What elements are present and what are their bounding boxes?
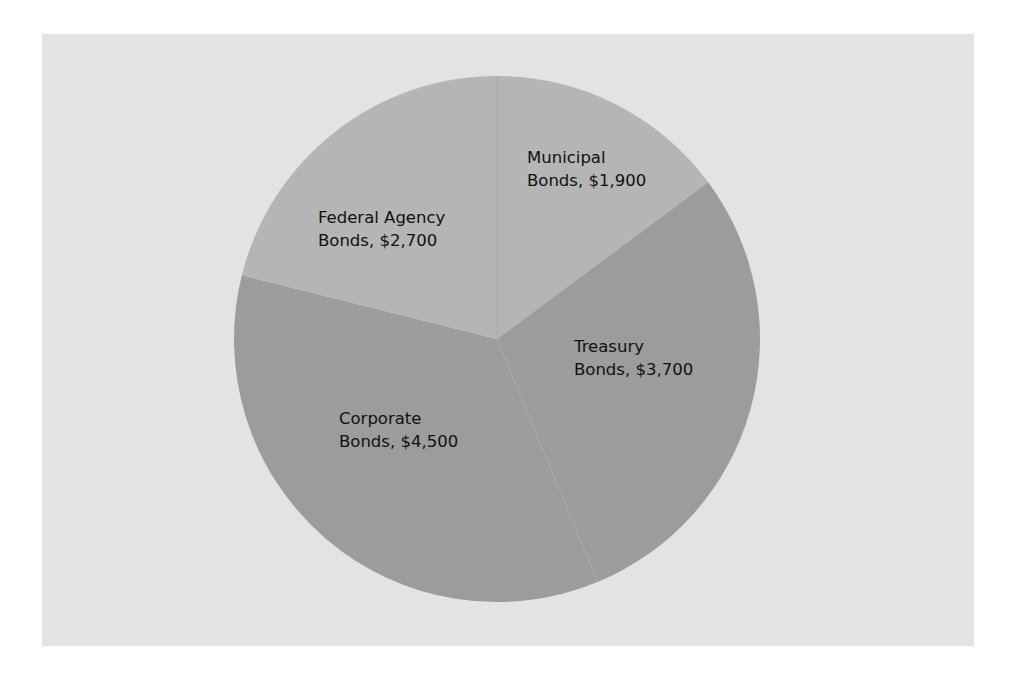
label-corporate-line2: Bonds, $4,500 <box>339 430 458 453</box>
label-municipal-line1: Municipal <box>527 146 646 169</box>
label-treasury-line1: Treasury <box>574 335 693 358</box>
label-federal-line2: Bonds, $2,700 <box>318 229 445 252</box>
label-corporate-bonds: Corporate Bonds, $4,500 <box>339 407 458 453</box>
label-treasury-line2: Bonds, $3,700 <box>574 358 693 381</box>
label-federal-line1: Federal Agency <box>318 206 445 229</box>
label-federal-agency-bonds: Federal Agency Bonds, $2,700 <box>318 206 445 252</box>
pie-chart <box>0 0 1011 677</box>
label-treasury-bonds: Treasury Bonds, $3,700 <box>574 335 693 381</box>
label-corporate-line1: Corporate <box>339 407 458 430</box>
label-municipal-bonds: Municipal Bonds, $1,900 <box>527 146 646 192</box>
label-municipal-line2: Bonds, $1,900 <box>527 169 646 192</box>
